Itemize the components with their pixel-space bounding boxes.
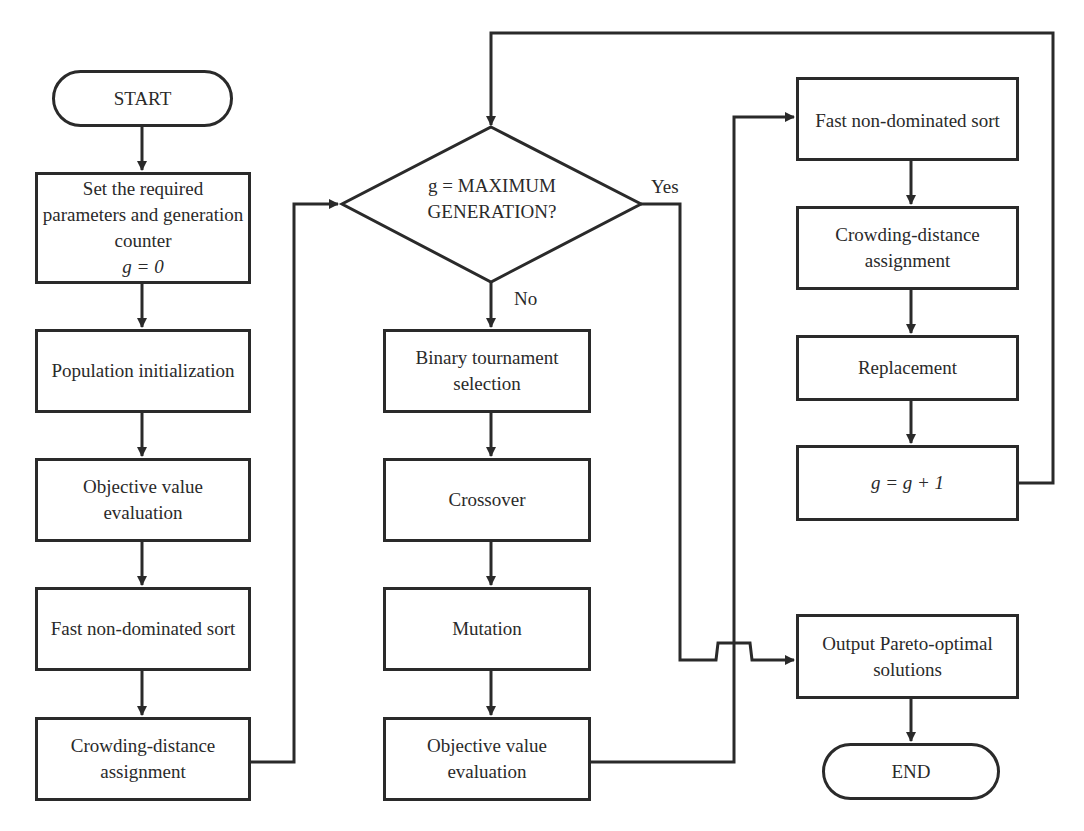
end-terminal: END xyxy=(822,743,1000,800)
increment-label: g = g + 1 xyxy=(871,470,944,496)
fast-sort-label-2: Fast non-dominated sort xyxy=(815,108,1000,134)
decision-label: g = MAXIMUM GENERATION? xyxy=(392,173,592,225)
start-label: START xyxy=(114,86,172,112)
set-parameters-label: Set the required parameters and generati… xyxy=(42,176,244,254)
objective-eval-label-1: Objective value evaluation xyxy=(42,474,244,526)
objective-eval-label-2: Objective value evaluation xyxy=(390,733,584,785)
output-box: Output Pareto-optimal solutions xyxy=(796,614,1019,699)
fast-sort-label-1: Fast non-dominated sort xyxy=(51,616,236,642)
output-label: Output Pareto-optimal solutions xyxy=(803,631,1012,683)
crowding-label-2: Crowding-distance assignment xyxy=(803,222,1012,274)
replacement-label: Replacement xyxy=(858,355,957,381)
replacement-box: Replacement xyxy=(796,335,1019,401)
crowding-box-2: Crowding-distance assignment xyxy=(796,206,1019,290)
crossover-label: Crossover xyxy=(448,487,525,513)
fast-sort-box-2: Fast non-dominated sort xyxy=(796,77,1019,161)
end-label: END xyxy=(891,759,930,785)
population-init-box: Population initialization xyxy=(35,329,251,413)
fast-sort-box-1: Fast non-dominated sort xyxy=(35,587,251,671)
objective-eval-box-1: Objective value evaluation xyxy=(35,458,251,542)
increment-box: g = g + 1 xyxy=(796,445,1019,521)
tournament-label: Binary tournament selection xyxy=(390,345,584,397)
tournament-box: Binary tournament selection xyxy=(383,329,591,413)
yes-label: Yes xyxy=(651,176,679,198)
start-terminal: START xyxy=(52,70,233,127)
decision-line1: g = MAXIMUM xyxy=(392,173,592,199)
g-zero-label: g = 0 xyxy=(122,254,163,280)
population-init-label: Population initialization xyxy=(51,358,234,384)
set-parameters-box: Set the required parameters and generati… xyxy=(35,172,251,284)
mutation-box: Mutation xyxy=(383,587,591,671)
crossover-box: Crossover xyxy=(383,458,591,542)
mutation-label: Mutation xyxy=(452,616,522,642)
crowding-label-1: Crowding-distance assignment xyxy=(42,733,244,785)
no-label: No xyxy=(514,288,537,310)
crowding-box-1: Crowding-distance assignment xyxy=(35,717,251,801)
decision-line2: GENERATION? xyxy=(392,199,592,225)
objective-eval-box-2: Objective value evaluation xyxy=(383,717,591,801)
